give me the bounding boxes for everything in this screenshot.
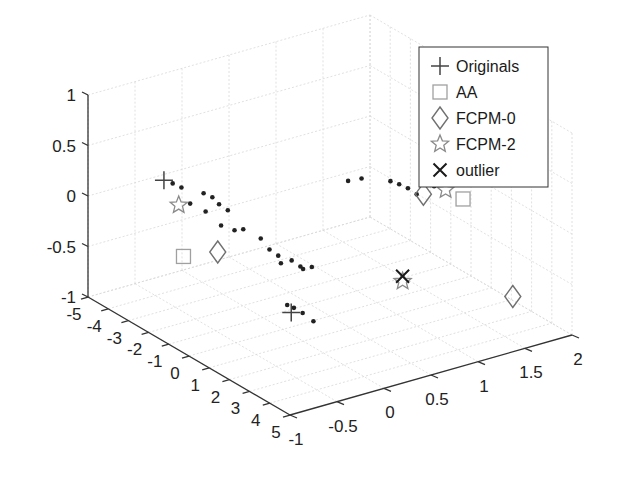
data-point [219,223,224,228]
y-tick [337,402,344,405]
data-point [279,261,284,266]
x-tick-label: 5 [271,423,280,442]
grid-line [323,230,525,348]
z-tick [82,294,88,297]
data-point [310,265,315,270]
fcpm-2-marker [170,196,187,212]
legend-label: FCPM-0 [456,110,516,127]
data-point [406,186,411,191]
grid-line [88,167,370,247]
data-point [388,179,393,184]
y-tick [525,348,532,351]
x-tick-label: 1 [190,376,199,395]
z-tick-label: 1 [67,86,76,105]
x-tick [222,380,229,382]
data-point [170,181,175,186]
data-point [232,228,237,233]
y-tick-label: 0.5 [425,390,449,409]
data-point [311,319,316,324]
grid-line [108,229,390,309]
data-point [359,176,364,181]
z-tick [82,143,88,146]
data-point [217,202,222,207]
x-tick [283,415,290,417]
data-point [301,267,306,272]
grid-line [182,270,384,388]
x-tick-label: 4 [251,411,260,430]
data-point [346,179,351,184]
z-tick-label: 0 [67,187,76,206]
grid-line [276,244,478,362]
x-tick [202,368,209,370]
y-tick [478,362,485,365]
y-tick-label: -0.5 [328,417,357,436]
data-point [300,311,305,316]
data-point [226,208,231,213]
data-point [203,209,208,214]
grid-line [250,311,532,391]
x-tick [121,321,128,323]
legend: OriginalsAAFCPM-0FCPM-2outlier [419,47,548,187]
legend-label: Originals [456,58,519,75]
legend-label: FCPM-2 [456,136,516,153]
x-tick [243,391,250,393]
data-point [292,306,297,311]
data-point [285,303,290,308]
data-point [179,185,184,190]
grid-line [229,300,511,380]
x-tick-label: -4 [87,317,102,336]
y-tick [431,375,438,378]
data-point [276,253,281,258]
z-tick [82,92,88,95]
x-tick [101,309,108,311]
x-tick [142,332,149,334]
x-tick [81,297,88,299]
aa-marker [176,249,190,263]
y-tick-label: -1 [288,430,303,449]
originals-marker [282,303,300,321]
x-tick-label: 0 [170,364,179,383]
data-point [258,236,263,241]
x-tick-label: -3 [107,329,122,348]
y-tick-label: 0 [385,403,394,422]
aa-marker [456,192,470,206]
data-point [267,247,272,252]
y-tick [384,388,391,391]
grid-line [88,66,370,146]
x-tick [182,356,189,358]
x-tick-label: 3 [231,399,240,418]
grid-line [149,252,431,332]
fcpm-2-marker [394,272,411,288]
z-tick [82,193,88,196]
fcpm-0-marker [505,286,521,308]
data-point [210,195,215,200]
scatter3d-plot: -1-0.500.51-5-4-3-2-1012345-1-0.500.511.… [0,0,630,477]
data-point [397,182,402,187]
originals-marker [155,171,173,189]
data-point [201,191,206,196]
x-tick-label: -5 [66,305,81,324]
fcpm-0-marker [210,241,226,263]
y-tick-label: 1 [479,377,488,396]
z-tick [82,244,88,247]
z-tick-label: 0.5 [52,137,76,156]
y-tick-label: 1.5 [519,363,543,382]
grid-line [128,241,410,321]
y-tick-label: 2 [573,350,582,369]
x-tick-label: -1 [147,352,162,371]
data-point [241,227,246,232]
data-points [155,166,521,324]
legend-label: outlier [456,162,500,179]
grid-line [270,323,552,403]
x-tick-label: -2 [127,340,142,359]
x-tick-label: 2 [211,388,220,407]
data-point [289,258,294,263]
legend-label: AA [456,84,478,101]
y-tick [572,335,579,338]
z-tick-label: -0.5 [47,238,76,257]
y-tick [290,415,297,418]
x-tick [162,344,169,346]
x-tick [263,403,270,405]
